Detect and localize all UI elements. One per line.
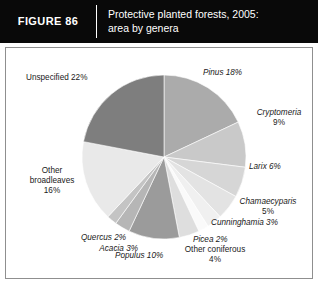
- figure-title-line2: area by genera: [108, 22, 179, 34]
- pie-label-other-coniferous-value: 4%: [174, 255, 256, 265]
- pie-label-chamaecyparis-value: 5%: [228, 207, 308, 217]
- pie-label-cryptomeria-name: Cryptomeria: [250, 108, 308, 118]
- figure-number: FIGURE 86: [18, 15, 78, 27]
- figure-number-cell: FIGURE 86: [0, 0, 96, 43]
- chart-frame: Unspecified 22% Pinus 18% Cryptomeria 9%…: [5, 47, 313, 279]
- pie-label-other-broadleaves-line2: broadleaves: [14, 176, 90, 186]
- figure-header: FIGURE 86 Protective planted forests, 20…: [0, 0, 318, 43]
- figure-title: Protective planted forests, 2005: area b…: [108, 8, 259, 35]
- pie-label-quercus: Quercus 2%: [34, 233, 126, 243]
- pie-label-cryptomeria-value: 9%: [250, 118, 308, 128]
- pie-label-acacia: Acacia 3%: [46, 244, 138, 254]
- pie-label-cunninghamia: Cunninghamia 3%: [211, 218, 278, 228]
- figure-title-cell: Protective planted forests, 2005: area b…: [97, 0, 318, 43]
- pie-label-pinus: Pinus 18%: [203, 68, 242, 78]
- figure-title-line1: Protective planted forests, 2005:: [108, 8, 259, 20]
- pie-slice-group: [82, 75, 246, 239]
- pie-label-picea: Picea 2%: [193, 235, 228, 245]
- pie-label-unspecified: Unspecified 22%: [26, 73, 87, 83]
- pie-label-other-broadleaves-line3: 16%: [14, 186, 90, 196]
- figure-container: FIGURE 86 Protective planted forests, 20…: [0, 0, 318, 284]
- pie-label-larix: Larix 6%: [249, 162, 281, 172]
- pie-label-chamaecyparis-name: Chamaecyparis: [228, 197, 308, 207]
- pie-label-other-broadleaves-line1: Other: [14, 166, 90, 176]
- pie-label-other-coniferous-name: Other coniferous: [174, 245, 256, 255]
